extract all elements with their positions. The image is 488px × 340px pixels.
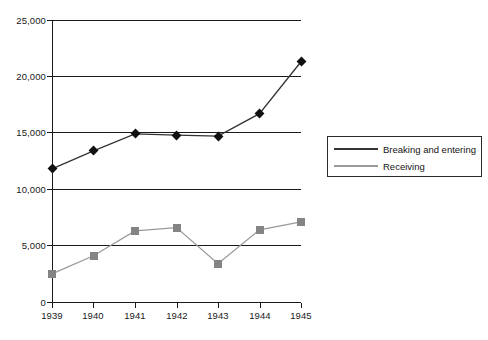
legend-item-receiving: Receiving [334, 158, 425, 174]
line-chart: 25,000 20,000 15,000 10,000 5,000 0 1939… [0, 0, 488, 340]
chart-legend: Breaking and entering Receiving [327, 136, 482, 177]
data-point-receiving-1942 [173, 224, 181, 232]
legend-label-receiving: Receiving [383, 161, 425, 172]
data-point-breaking-and-entering-1939 [49, 165, 56, 172]
legend-item-breaking-and-entering: Breaking and entering [334, 141, 476, 157]
data-point-receiving-1939 [48, 270, 56, 278]
data-point-receiving-1944 [256, 226, 264, 234]
data-point-breaking-and-entering-1945 [298, 58, 305, 65]
data-point-receiving-1943 [214, 260, 222, 268]
legend-label-breaking-and-entering: Breaking and entering [383, 144, 476, 155]
data-point-breaking-and-entering-1943 [215, 133, 222, 140]
data-point-breaking-and-entering-1944 [256, 110, 263, 117]
legend-swatch-breaking-and-entering [334, 143, 378, 155]
data-point-receiving-1940 [90, 252, 98, 260]
data-point-breaking-and-entering-1940 [90, 147, 97, 154]
data-point-receiving-1945 [297, 218, 305, 226]
legend-swatch-receiving [334, 160, 378, 172]
data-point-receiving-1941 [131, 227, 139, 235]
data-point-breaking-and-entering-1941 [132, 130, 139, 137]
data-point-breaking-and-entering-1942 [173, 132, 180, 139]
